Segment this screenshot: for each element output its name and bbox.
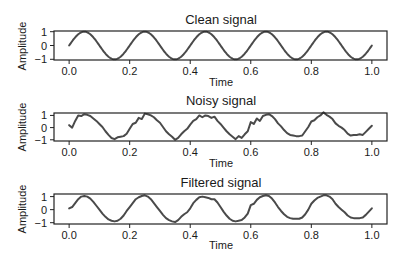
y-ticks: 10−1 [34, 26, 54, 66]
y-tick-label: 0 [41, 40, 47, 52]
x-ticks: 0.00.20.40.60.81.0 [61, 60, 379, 77]
noisy-signal-line [69, 112, 372, 139]
x-axis-label: Time [209, 76, 233, 88]
x-tick-label: 0.8 [304, 146, 319, 158]
y-tick-label: 0 [41, 204, 47, 216]
x-tick-label: 0.2 [122, 65, 137, 77]
y-ticks: 10−1 [34, 109, 54, 145]
x-tick-label: 0.6 [243, 65, 258, 77]
y-tick-label: −1 [34, 134, 47, 146]
y-tick-label: −1 [34, 53, 47, 65]
x-tick-label: 0.6 [243, 146, 258, 158]
y-axis-label: Amplitude [16, 103, 28, 152]
x-tick-label: 0.6 [243, 229, 258, 241]
axes-frame [54, 113, 387, 141]
y-ticks: 10−1 [34, 191, 54, 229]
figure-canvas: Clean signal Amplitude Time 0.00.20.40.6… [0, 0, 409, 261]
x-tick-label: 0.8 [304, 229, 319, 241]
y-axis-label: Amplitude [16, 22, 28, 71]
x-axis-label: Time [209, 239, 233, 251]
subplot-filtered-signal: Filtered signal Amplitude Time 0.00.20.4… [16, 175, 387, 251]
y-tick-label: 1 [41, 26, 47, 38]
x-tick-label: 0.0 [61, 65, 76, 77]
x-tick-label: 1.0 [364, 229, 379, 241]
x-tick-label: 0.4 [183, 229, 198, 241]
x-tick-label: 0.0 [61, 229, 76, 241]
x-tick-label: 0.8 [304, 65, 319, 77]
y-tick-label: −1 [34, 217, 47, 229]
subplot-title: Filtered signal [181, 175, 262, 190]
x-tick-label: 0.0 [61, 146, 76, 158]
axes-frame [54, 194, 387, 224]
y-axis-label: Amplitude [16, 185, 28, 234]
x-tick-label: 0.4 [183, 146, 198, 158]
x-tick-label: 1.0 [364, 146, 379, 158]
clean-signal-line [69, 32, 372, 60]
subplot-noisy-signal: Noisy signal Amplitude Time 0.00.20.40.6… [16, 93, 387, 169]
subplot-clean-signal: Clean signal Amplitude Time 0.00.20.40.6… [16, 12, 387, 88]
figure: Clean signal Amplitude Time 0.00.20.40.6… [0, 0, 409, 261]
x-tick-label: 1.0 [364, 65, 379, 77]
y-tick-label: 1 [41, 191, 47, 203]
y-tick-label: 1 [41, 109, 47, 121]
x-ticks: 0.00.20.40.60.81.0 [61, 141, 379, 158]
filtered-signal-line [69, 195, 372, 222]
x-axis-label: Time [209, 157, 233, 169]
x-tick-label: 0.4 [183, 65, 198, 77]
subplot-title: Clean signal [185, 12, 257, 27]
y-tick-label: 0 [41, 122, 47, 134]
x-tick-label: 0.2 [122, 146, 137, 158]
subplot-title: Noisy signal [186, 93, 256, 108]
x-tick-label: 0.2 [122, 229, 137, 241]
